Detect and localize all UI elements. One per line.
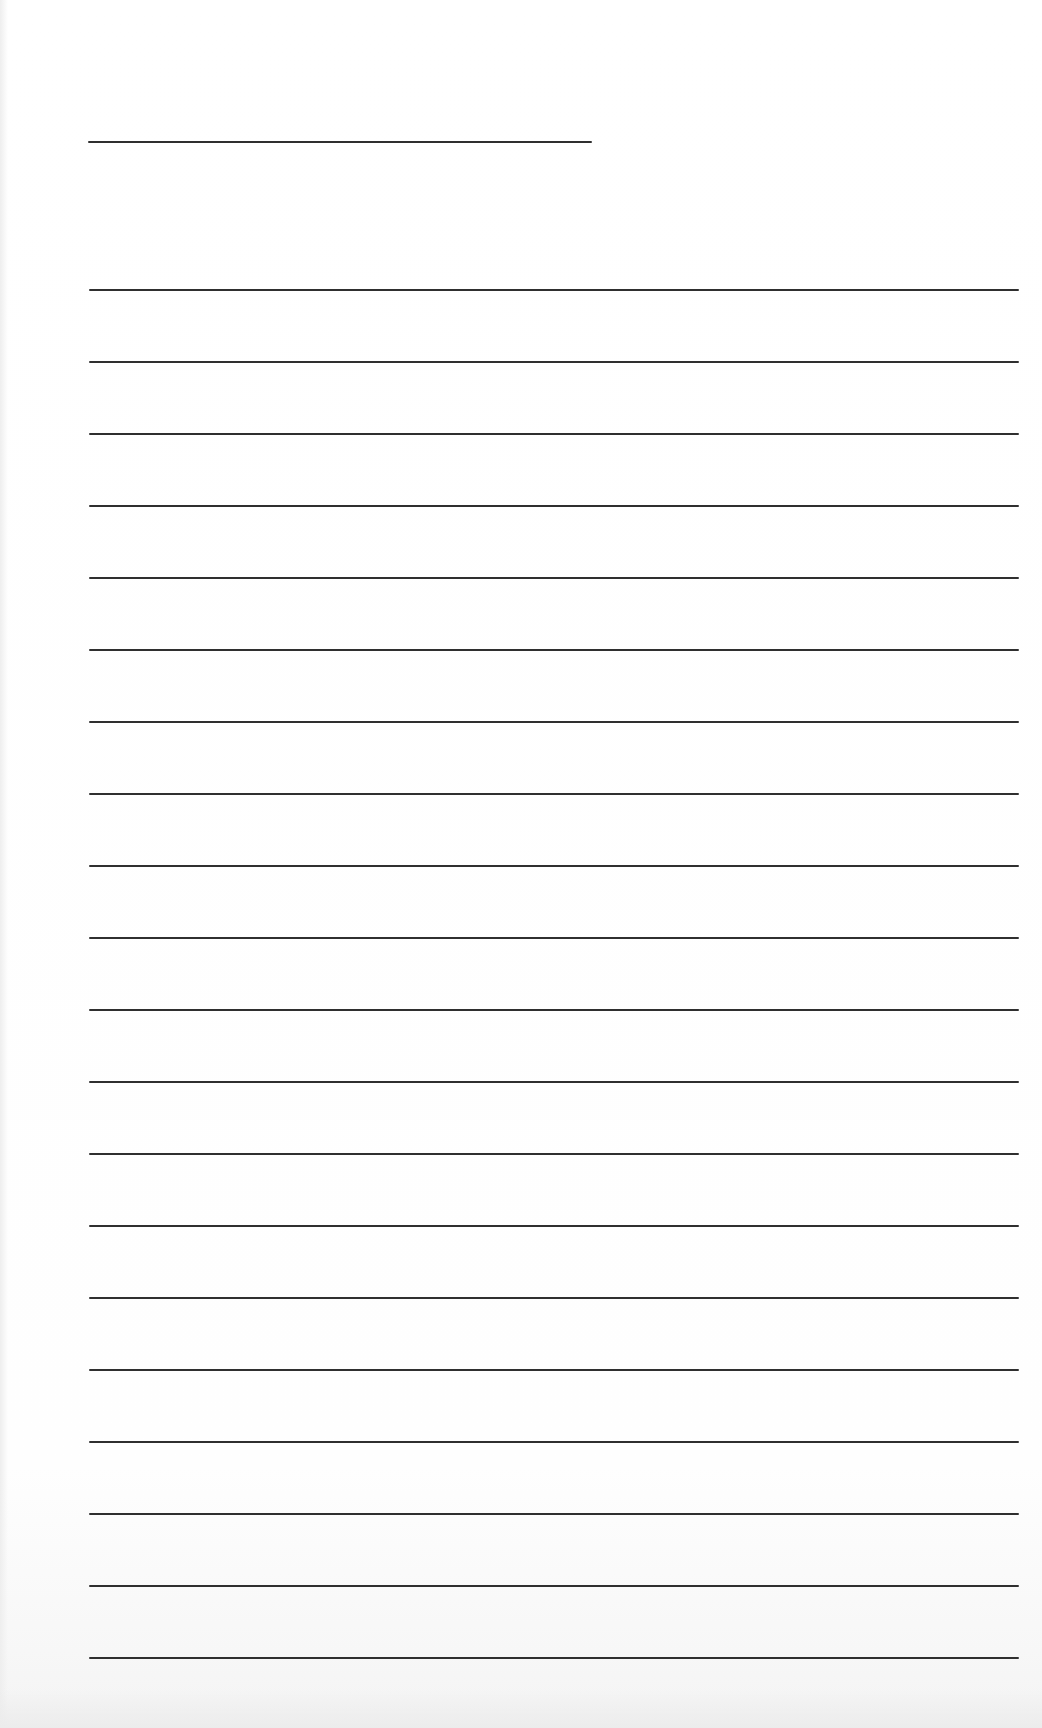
lined-paper-page <box>0 0 1042 1728</box>
writing-line[interactable] <box>89 1009 1019 1011</box>
writing-line[interactable] <box>89 793 1019 795</box>
writing-line[interactable] <box>89 1513 1019 1515</box>
page-left-edge <box>0 0 8 1728</box>
page-bottom-edge <box>0 1688 1042 1728</box>
writing-line[interactable] <box>89 937 1019 939</box>
writing-line[interactable] <box>89 577 1019 579</box>
writing-line[interactable] <box>89 1081 1019 1083</box>
writing-line[interactable] <box>89 649 1019 651</box>
writing-line[interactable] <box>89 1441 1019 1443</box>
writing-line[interactable] <box>89 505 1019 507</box>
writing-line[interactable] <box>89 1369 1019 1371</box>
writing-line[interactable] <box>89 1657 1019 1659</box>
writing-line[interactable] <box>89 1153 1019 1155</box>
title-writing-line[interactable] <box>88 141 592 143</box>
writing-line[interactable] <box>89 1297 1019 1299</box>
writing-line[interactable] <box>89 1585 1019 1587</box>
writing-line[interactable] <box>89 289 1019 291</box>
writing-line[interactable] <box>89 721 1019 723</box>
writing-line[interactable] <box>89 1225 1019 1227</box>
writing-line[interactable] <box>89 361 1019 363</box>
writing-line[interactable] <box>89 433 1019 435</box>
writing-line[interactable] <box>89 865 1019 867</box>
